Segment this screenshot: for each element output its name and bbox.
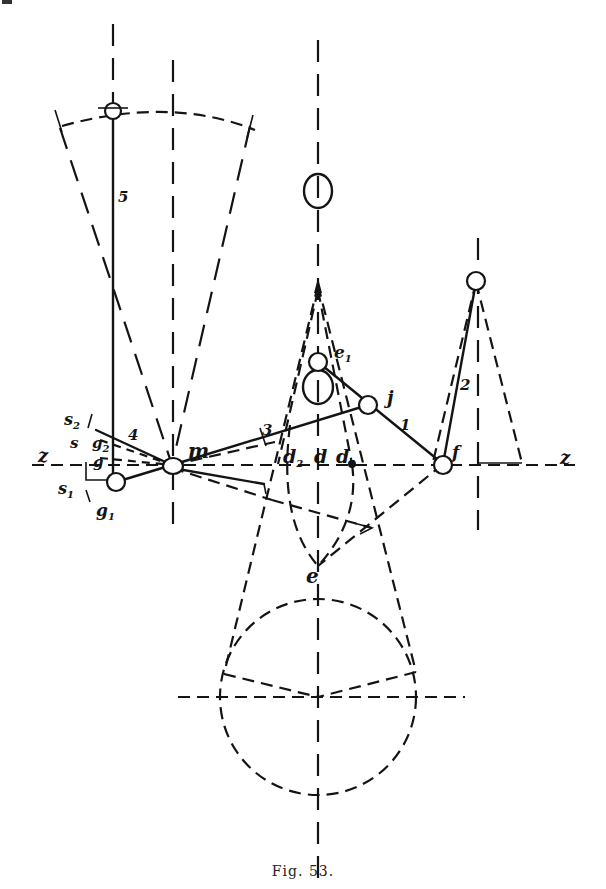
- tick-s2: [88, 414, 92, 428]
- link2-dashed-left: [433, 282, 476, 462]
- label-axis-z-left: z: [37, 445, 49, 466]
- label-point-s2: s2: [63, 410, 80, 431]
- circle-chord-right: [318, 672, 416, 697]
- joint-m: [163, 458, 183, 474]
- label-point-d: d: [314, 445, 327, 467]
- radial-line-left: [60, 128, 172, 465]
- label-axis-z-right: z: [559, 447, 571, 468]
- tick-s1: [86, 490, 90, 502]
- joint-j: [359, 396, 377, 414]
- label-link-5: 5: [118, 188, 128, 206]
- figure-caption: Fig. 53.: [0, 863, 606, 879]
- label-link-2: 2: [459, 376, 470, 394]
- joint-pivot-link5: [105, 103, 121, 119]
- label-link-4: 4: [128, 426, 138, 444]
- label-point-g2: g2: [92, 434, 110, 454]
- lower-circle: [178, 599, 465, 795]
- line-f-e: [318, 464, 443, 566]
- label-point-e1: e1: [334, 342, 352, 364]
- label-point-s: s: [70, 434, 79, 452]
- swing-arc: [62, 112, 255, 130]
- central-cone: [224, 278, 443, 674]
- label-point-j: j: [384, 387, 394, 408]
- link-2: [443, 282, 476, 464]
- label-point-s1: s1: [57, 479, 74, 500]
- label-point-e: e: [306, 564, 319, 588]
- circle-chord-left: [224, 674, 318, 697]
- joint-f: [434, 456, 452, 474]
- cone-inner-left: [278, 290, 318, 464]
- label-point-d1: d1: [336, 445, 356, 469]
- link2-dashed-right: [476, 282, 522, 463]
- joint-pivot-link2: [467, 272, 485, 290]
- label-point-g1: g1: [96, 500, 115, 522]
- tick-lower: [264, 484, 266, 494]
- swing-arc-link5: [55, 110, 255, 465]
- label-link-1: 1: [400, 416, 410, 434]
- label-point-g: g: [93, 453, 104, 471]
- radial-line-right: [172, 126, 250, 465]
- label-point-f: f: [451, 442, 462, 462]
- joint-g1: [107, 473, 125, 491]
- mechanism-diagram: 5 4 3 1 2 m j f e e1 d2 d d1 s2 s s1 g2 …: [0, 0, 606, 889]
- label-point-m: m: [188, 439, 209, 463]
- label-link-3: 3: [262, 421, 272, 439]
- label-point-d2: d2: [283, 445, 303, 469]
- joint-e1: [309, 353, 327, 371]
- cone-right-edge: [318, 285, 416, 672]
